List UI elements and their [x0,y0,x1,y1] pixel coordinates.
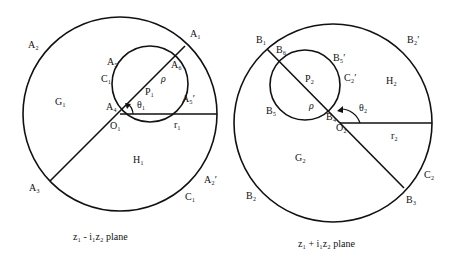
label-rho-2: ρ [309,101,314,111]
label-rho-1: ρ [161,74,166,84]
label-b2: B₂ [246,191,256,201]
diagram-canvas [0,0,449,265]
label-r2: r₂ [391,131,398,141]
arrow-head-theta2 [337,106,343,113]
label-b6: B₆ [276,45,286,55]
label-g2: G₂ [295,153,306,163]
caption-right-plane: z₁ + i₁z₂ plane [298,238,355,249]
label-h2: H₂ [386,76,397,86]
label-g1: G₁ [55,97,66,107]
label-theta2: θ₂ [359,103,367,113]
label-c2-prime: C₂′ [344,73,356,83]
label-a1: A₁ [190,29,201,39]
label-a3: A₃ [29,183,40,193]
caption-left-plane: z₁ - i₁z₂ plane [73,231,128,242]
label-b4: B₄ [326,112,336,122]
inner-circle-c2 [270,50,340,120]
label-a4: A₄ [106,102,117,112]
angle-arc-theta2 [341,109,360,123]
label-b5: B₅ [266,106,276,116]
inner-circle-c1 [112,46,188,122]
label-a6: A₆ [171,60,182,70]
label-a2: A₂ [28,40,39,50]
label-b1: B₁ [256,35,266,45]
label-b3: B₃ [406,195,416,205]
label-a2-prime: A₂′ [204,175,217,185]
label-theta1: θ₁ [137,100,145,110]
label-o1: O₁ [110,121,121,131]
label-a5-prime: A₅′ [182,94,195,104]
label-a5: A₅ [107,57,118,67]
label-c2: C₂ [424,170,434,180]
label-p2: P₂ [305,74,314,84]
label-c1: C₁ [185,192,195,202]
label-b2-prime: B₂′ [407,35,419,45]
left-diagram [23,17,217,211]
label-p1: P₁ [145,87,154,97]
label-c1-small: C₁ [101,74,111,84]
label-h1: H₁ [133,155,144,165]
label-r1: r₁ [174,120,181,130]
label-o2: O₂ [336,123,347,133]
angle-arc-theta1 [129,105,133,114]
label-b5-prime: B₅′ [333,53,345,63]
